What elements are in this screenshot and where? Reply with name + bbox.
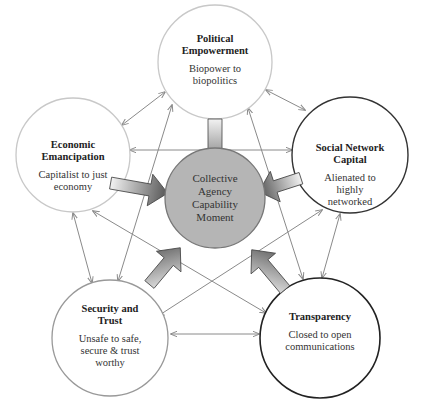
connector-social-transparency <box>322 214 340 278</box>
subtitle-line: economy <box>18 181 128 193</box>
center-line: Agency <box>165 185 265 198</box>
center-line: Collective <box>165 172 265 185</box>
title-line: Political <box>165 33 265 45</box>
node-subtitle: Unsafe to safe, secure & trust worthy <box>60 333 160 369</box>
title-line: Transparency <box>265 311 375 323</box>
subtitle-line: communications <box>265 341 375 353</box>
node-transparency: Transparency Closed to open communicatio… <box>265 311 375 353</box>
node-subtitle: Closed to open communications <box>265 329 375 353</box>
node-title: Security and Trust <box>60 303 160 327</box>
subtitle-line: worthy <box>60 357 160 369</box>
node-subtitle: Alienated to highly networked <box>300 172 400 208</box>
center-label: Collective Agency Capability Moment <box>165 172 265 224</box>
node-social: Social Network Capital Alienated to high… <box>300 142 400 208</box>
subtitle-line: biopolitics <box>165 75 265 87</box>
title-line: Security and <box>60 303 160 315</box>
subtitle-line: networked <box>300 196 400 208</box>
title-line: Empowerment <box>165 45 265 57</box>
title-line: Emancipation <box>18 151 128 163</box>
node-title: Economic Emancipation <box>18 139 128 163</box>
title-line: Trust <box>60 315 160 327</box>
node-title: Political Empowerment <box>165 33 265 57</box>
node-economic: Economic Emancipation Capitalist to just… <box>18 139 128 193</box>
subtitle-line: secure & trust <box>60 345 160 357</box>
node-subtitle: Biopower to biopolitics <box>165 63 265 87</box>
node-political: Political Empowerment Biopower to biopol… <box>165 33 265 87</box>
center-line: Capability <box>165 198 265 211</box>
subtitle-line: Alienated to <box>300 172 400 184</box>
center-line: Moment <box>165 211 265 224</box>
node-subtitle: Capitalist to just economy <box>18 169 128 193</box>
node-security: Security and Trust Unsafe to safe, secur… <box>60 303 160 369</box>
title-line: Social Network <box>300 142 400 154</box>
subtitle-line: Biopower to <box>165 63 265 75</box>
title-line: Economic <box>18 139 128 151</box>
block-arrow-security <box>137 237 192 294</box>
connector-economic-security <box>73 213 92 283</box>
node-title: Social Network Capital <box>300 142 400 166</box>
connector-political-economic <box>122 92 165 125</box>
connector-political-social <box>266 90 305 110</box>
node-title: Transparency <box>265 311 375 323</box>
subtitle-line: Capitalist to just <box>18 169 128 181</box>
subtitle-line: highly <box>300 184 400 196</box>
subtitle-line: Unsafe to safe, <box>60 333 160 345</box>
subtitle-line: Closed to open <box>265 329 375 341</box>
title-line: Capital <box>300 154 400 166</box>
